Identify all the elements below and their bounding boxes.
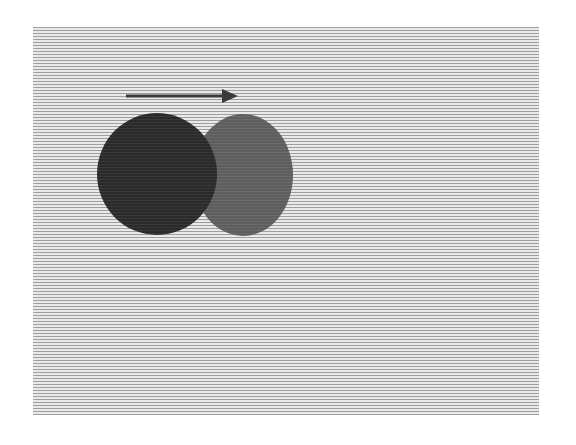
motion-figure — [0, 0, 576, 445]
arrow-right-icon — [126, 89, 238, 103]
solid-circle-scanlines — [97, 113, 217, 235]
diagram-canvas — [0, 0, 576, 445]
